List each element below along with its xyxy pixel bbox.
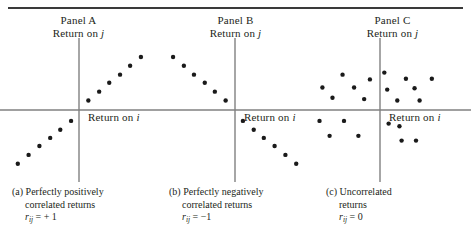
scatter-point [171,55,175,59]
panel-b-caption-line2: correlated returns [169,199,314,212]
panel-b-correlation-formula: rij = −1 [169,211,314,225]
scatter-point [412,86,416,90]
scatter-point [327,134,331,138]
panel-c-caption: (c) Uncorrelated returns rij = 0 [326,186,471,225]
panel-b-plot [157,36,314,184]
scatter-point [262,136,266,140]
scatter-point [69,119,73,123]
scatter-point [417,98,421,102]
scatter-point [48,136,52,140]
scatter-point [397,124,401,128]
scatter-point [128,64,132,68]
panel-c-caption-line2: returns [326,199,471,212]
scatter-point [414,138,418,142]
scatter-point [340,72,344,76]
scatter-point [97,89,101,93]
panel-c-caption-line1: (c) Uncorrelated [326,186,471,199]
scatter-point [252,128,256,132]
panel-b: Panel B Return on j Return on i (b) Perf… [157,0,314,234]
scatter-point [203,81,207,85]
scatter-point [16,162,20,166]
panel-c-correlation-formula: rij = 0 [326,211,471,225]
scatter-point [213,89,217,93]
panel-b-x-axis-label: Return on i [244,111,296,123]
scatter-point [317,119,321,123]
panel-a-plot [0,36,157,184]
scatter-point [118,72,122,76]
panel-c-x-axis-label: Return on i [389,111,441,123]
panel-b-title: Panel B [157,14,314,27]
scatter-point [385,87,389,91]
scatter-point [182,64,186,68]
scatter-point [330,96,334,100]
scatter-point [223,98,227,102]
scatter-point [107,81,111,85]
panel-a-x-axis-label: Return on i [88,111,140,123]
scatter-point [395,98,399,102]
panel-a-caption-line1: (a) Perfectly positively [12,186,157,199]
scatter-point [37,144,41,148]
scatter-point [294,162,298,166]
panel-c: Panel C Return on j Return on i (c) Unco… [314,0,471,234]
scatter-point [283,153,287,157]
scatter-point [342,119,346,123]
panel-a: Panel A Return on j Return on i (a) Perf… [0,0,157,234]
scatter-point [404,77,408,81]
panel-b-caption-line1: (b) Perfectly negatively [169,186,314,199]
scatter-point [272,144,276,148]
scatter-point [362,97,366,101]
panel-a-caption: (a) Perfectly positively correlated retu… [12,186,157,225]
scatter-point [382,70,386,74]
panel-b-caption: (b) Perfectly negatively correlated retu… [169,186,314,225]
panel-c-plot [314,36,471,184]
scatter-point [352,85,356,89]
scatter-point [320,85,324,89]
figure-panels: Panel A Return on j Return on i (a) Perf… [0,0,471,234]
scatter-point [430,77,434,81]
scatter-point [399,138,403,142]
panel-a-title: Panel A [0,14,157,27]
scatter-point [139,55,143,59]
scatter-point [368,77,372,81]
panel-c-title: Panel C [314,14,471,27]
scatter-point [192,72,196,76]
scatter-point [356,134,360,138]
scatter-point [58,128,62,132]
scatter-point [26,153,30,157]
panel-a-caption-line2: correlated returns [12,199,157,212]
scatter-point [86,98,90,102]
panel-a-correlation-formula: rij = + 1 [12,211,157,225]
